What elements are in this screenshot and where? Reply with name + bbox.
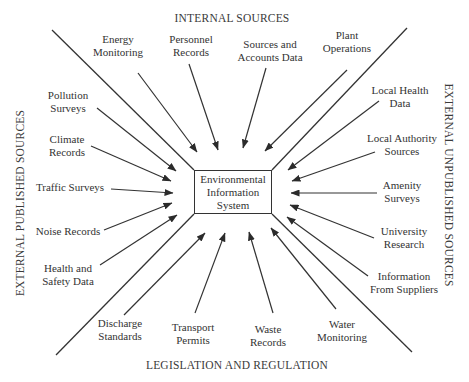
label-transport-permits: TransportPermits (172, 321, 214, 347)
arrow-climate-records (91, 146, 171, 181)
arrow-sources-and-accounts-data (243, 68, 266, 148)
label-line: Records (169, 46, 212, 59)
label-line: Water (317, 318, 367, 331)
label-plant-operations: PlantOperations (323, 29, 371, 55)
arrow-health-and-safety-data (100, 215, 177, 265)
label-health-and-safety-data: Health andSafety Data (42, 262, 94, 288)
label-discharge-standards: DischargeStandards (98, 317, 142, 343)
label-water-monitoring: WaterMonitoring (317, 318, 367, 344)
arrow-waste-records (249, 232, 273, 313)
label-line: Data (371, 97, 428, 110)
heading-external-published-sources: EXTERNAL PUBLISHED SOURCES (14, 110, 26, 296)
label-personnel-records: PersonnelRecords (169, 33, 212, 59)
label-line: Waste (250, 323, 286, 336)
center-box-line-2: Information (207, 186, 260, 199)
arrow-plant-operations (265, 70, 347, 151)
label-line: Accounts Data (237, 51, 302, 64)
heading-external-unpublished-sources: EXTERNAL UNPUBLISHED SOURCES (443, 83, 455, 286)
label-university-research: UniversityResearch (381, 225, 427, 251)
label-local-authority-sources: Local AuthoritySources (367, 132, 437, 158)
label-line: Traffic Surveys (36, 181, 104, 194)
arrow-energy-monitoring (138, 73, 197, 152)
label-line: Information (370, 270, 438, 283)
label-line: Surveys (383, 192, 422, 205)
label-line: Standards (98, 330, 142, 343)
label-line: Climate (49, 133, 85, 146)
label-local-health-data: Local HealthData (371, 84, 428, 110)
label-line: Permits (172, 334, 214, 347)
label-climate-records: ClimateRecords (49, 133, 85, 159)
label-line: Safety Data (42, 275, 94, 288)
label-traffic-surveys: Traffic Surveys (36, 181, 104, 194)
label-line: Transport (172, 321, 214, 334)
label-line: From Suppliers (370, 283, 438, 296)
arrow-university-research (290, 205, 374, 238)
heading-internal-sources: INTERNAL SOURCES (175, 12, 290, 24)
label-line: Monitoring (93, 46, 143, 59)
label-energy-monitoring: EnergyMonitoring (93, 33, 143, 59)
arrow-information-from-suppliers (287, 217, 368, 276)
label-pollution-surveys: PollutionSurveys (48, 89, 88, 115)
label-sources-and-accounts-data: Sources andAccounts Data (237, 38, 302, 64)
label-line: Research (381, 238, 427, 251)
arrow-pollution-surveys (97, 108, 176, 171)
heading-legislation-and-regulation: LEGISLATION AND REGULATION (146, 359, 328, 371)
label-line: University (381, 225, 427, 238)
arrow-water-monitoring (271, 228, 336, 309)
label-line: Discharge (98, 317, 142, 330)
label-line: Records (250, 336, 286, 349)
label-amenity-surveys: AmenitySurveys (383, 179, 422, 205)
environmental-information-system-box: Environmental Information System (194, 170, 272, 214)
label-line: Local Authority (367, 132, 437, 145)
label-noise-records: Noise Records (36, 225, 100, 238)
label-line: Sources (367, 145, 437, 158)
label-line: Sources and (237, 38, 302, 51)
label-information-from-suppliers: InformationFrom Suppliers (370, 270, 438, 296)
label-line: Operations (323, 42, 371, 55)
center-box-line-1: Environmental (200, 173, 265, 186)
label-line: Monitoring (317, 331, 367, 344)
label-line: Records (49, 146, 85, 159)
arrow-transport-permits (195, 233, 225, 313)
arrow-local-authority-sources (292, 152, 375, 181)
label-line: Amenity (383, 179, 422, 192)
arrow-personnel-records (189, 64, 218, 150)
arrow-traffic-surveys (111, 189, 173, 193)
arrow-noise-records (104, 203, 172, 230)
label-line: Noise Records (36, 225, 100, 238)
label-line: Personnel (169, 33, 212, 46)
label-line: Health and (42, 262, 94, 275)
label-line: Energy (93, 33, 143, 46)
label-waste-records: WasteRecords (250, 323, 286, 349)
center-box-line-3: System (217, 199, 249, 212)
label-line: Pollution (48, 89, 88, 102)
label-line: Plant (323, 29, 371, 42)
label-line: Local Health (371, 84, 428, 97)
label-line: Surveys (48, 102, 88, 115)
arrow-local-health-data (288, 101, 379, 170)
